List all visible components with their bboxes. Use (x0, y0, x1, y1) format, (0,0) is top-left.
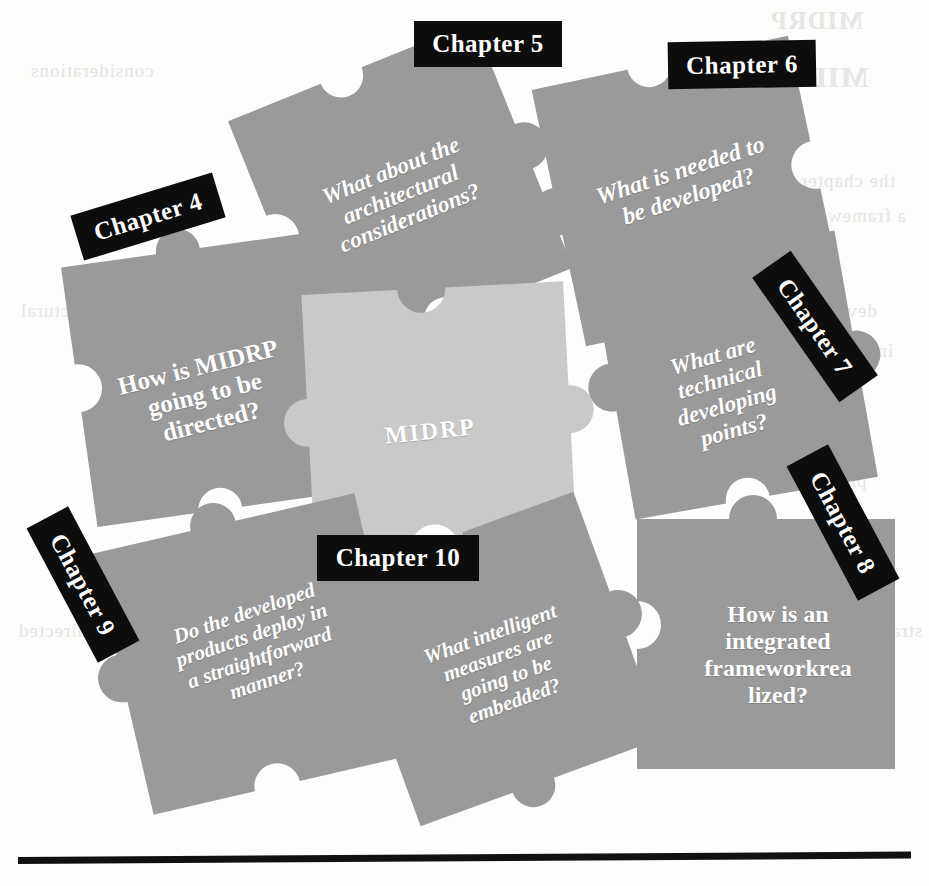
chapter-label-text: Chapter 5 (432, 30, 544, 58)
footer-rule (18, 852, 911, 864)
bleed-text: MIDRP (770, 6, 863, 36)
figure-canvas: MIDRP MIDRP the chapter a framework of d… (0, 0, 929, 886)
bleed-text: considerations (30, 60, 154, 82)
chapter-label-text: Chapter 6 (686, 50, 798, 80)
chapter-label-chapter-5[interactable]: Chapter 5 (415, 22, 561, 66)
bleed-text: directed (18, 620, 87, 642)
chapter-label-chapter-6[interactable]: Chapter 6 (669, 41, 816, 89)
chapter-label-chapter-10[interactable]: Chapter 10 (318, 536, 478, 580)
chapter-label-chapter-4[interactable]: Chapter 4 (72, 174, 225, 260)
chapter-label-text: Chapter 10 (336, 544, 461, 572)
